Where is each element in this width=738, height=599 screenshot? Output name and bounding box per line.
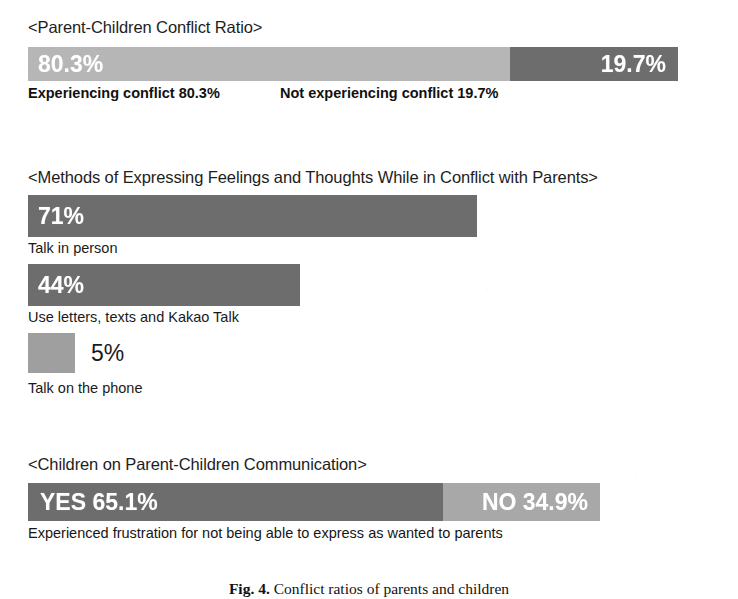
bar-value-talk-in-person: 71% bbox=[28, 203, 84, 230]
bar-value-not-experiencing-conflict: 19.7% bbox=[601, 51, 678, 78]
bar-value-talk-on-phone: 5% bbox=[75, 340, 124, 367]
bar-letters-texts-kakao: 44% bbox=[28, 264, 738, 306]
stacked-bar-conflict-ratio: 80.3% 19.7% bbox=[28, 47, 738, 81]
bar-segment-no: NO 34.9% bbox=[443, 483, 600, 521]
bar-caption-letters-texts-kakao: Use letters, texts and Kakao Talk bbox=[0, 309, 738, 325]
bar-value-letters-texts-kakao: 44% bbox=[28, 272, 84, 299]
legend-conflict-ratio: Experiencing conflict 80.3% Not experien… bbox=[0, 85, 678, 101]
panel-communication: <Children on Parent-Children Communicati… bbox=[0, 455, 738, 541]
legend-label-experiencing-conflict: Experiencing conflict 80.3% bbox=[28, 85, 280, 101]
legend-label-not-experiencing-conflict: Not experiencing conflict 19.7% bbox=[280, 85, 498, 101]
bar-value-experiencing-conflict: 80.3% bbox=[28, 51, 103, 78]
bar-talk-in-person: 71% bbox=[28, 195, 738, 237]
stacked-bar-communication: YES 65.1% NO 34.9% bbox=[28, 483, 738, 521]
bar-group-talk-on-phone: 5% Talk on the phone bbox=[0, 333, 738, 396]
bar-group-talk-in-person: 71% Talk in person bbox=[0, 195, 738, 256]
figure-conflict-ratios: <Parent-Children Conflict Ratio> 80.3% 1… bbox=[0, 0, 738, 599]
figure-caption-text: Conflict ratios of parents and children bbox=[274, 580, 509, 597]
bar-value-no: NO 34.9% bbox=[482, 489, 600, 516]
panel-conflict-ratio: <Parent-Children Conflict Ratio> 80.3% 1… bbox=[0, 18, 738, 101]
panel-title-expression-methods: <Methods of Expressing Feelings and Thou… bbox=[0, 168, 738, 187]
panel-title-conflict-ratio: <Parent-Children Conflict Ratio> bbox=[0, 18, 738, 37]
bar-fill-letters-texts-kakao: 44% bbox=[28, 264, 300, 306]
bar-value-yes: YES 65.1% bbox=[28, 489, 158, 516]
bar-fill-talk-in-person: 71% bbox=[28, 195, 477, 237]
bar-talk-on-phone: 5% bbox=[28, 333, 738, 373]
bar-fill-talk-on-phone bbox=[28, 333, 75, 373]
panel-note-communication: Experienced frustration for not being ab… bbox=[0, 525, 738, 541]
bar-caption-talk-on-phone: Talk on the phone bbox=[0, 380, 738, 396]
figure-caption: Fig. 4. Conflict ratios of parents and c… bbox=[0, 580, 738, 599]
bar-group-letters-texts-kakao: 44% Use letters, texts and Kakao Talk bbox=[0, 264, 738, 325]
bar-caption-talk-in-person: Talk in person bbox=[0, 240, 738, 256]
bar-segment-yes: YES 65.1% bbox=[28, 483, 443, 521]
bar-segment-not-experiencing-conflict: 19.7% bbox=[510, 47, 678, 81]
bar-segment-experiencing-conflict: 80.3% bbox=[28, 47, 510, 81]
figure-caption-label: Fig. 4. bbox=[229, 580, 270, 597]
panel-title-communication: <Children on Parent-Children Communicati… bbox=[0, 455, 738, 474]
panel-expression-methods: <Methods of Expressing Feelings and Thou… bbox=[0, 168, 738, 396]
